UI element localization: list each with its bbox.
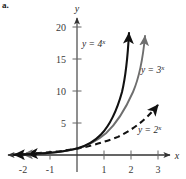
y-tick-label-5: 5: [61, 118, 66, 129]
exponential-graph-figure: a.: [0, 0, 186, 179]
plot-area: -2 -1 1 2 3 5 10 15 20 x y: [0, 0, 186, 179]
curve-label-2x-exponent: x: [157, 124, 162, 132]
curve-label-4x-text: y = 4: [81, 39, 102, 49]
curve-label-2x: y = 2x: [137, 124, 162, 136]
curve-label-4x: y = 4x: [81, 38, 106, 50]
curve-label-4x-exponent: x: [101, 38, 106, 46]
x-tick-label-3: 3: [156, 164, 161, 175]
x-tick-label--1: -1: [46, 164, 54, 175]
x-tick-label-2: 2: [129, 164, 134, 175]
x-tick-label-1: 1: [102, 164, 107, 175]
curve-label-3x-text: y = 3: [140, 65, 161, 75]
x-tick-label--2: -2: [19, 164, 27, 175]
curve-4x: [14, 33, 129, 155]
curve-label-3x: y = 3x: [140, 64, 165, 76]
y-tick-labels: 5 10 15 20: [56, 22, 66, 129]
y-tick-label-10: 10: [56, 86, 66, 97]
y-axis-label: y: [74, 3, 80, 14]
x-tick-labels: -2 -1 1 2 3: [19, 164, 161, 175]
y-tick-label-20: 20: [56, 22, 66, 33]
x-axis-label: x: [174, 150, 180, 161]
curve-4x-group: [14, 33, 129, 155]
curve-label-3x-exponent: x: [160, 64, 165, 72]
curve-label-2x-text: y = 2: [137, 125, 158, 135]
y-tick-label-15: 15: [56, 54, 66, 65]
